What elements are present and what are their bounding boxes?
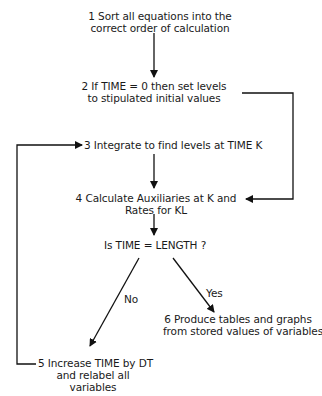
step-3: 3 Integrate to find levels at TIME K — [84, 139, 244, 151]
step-6: 6 Produce tables and graphs from stored … — [163, 313, 313, 337]
step-2: 2 If TIME = 0 then set levels to stipula… — [70, 80, 238, 104]
step-5-line1: 5 Increase TIME by DT — [38, 357, 148, 369]
arrow-decision-yes — [173, 258, 214, 312]
step-1: 1 Sort all equations into the correct or… — [60, 10, 260, 34]
step-4-line2: Rates for KL — [72, 204, 240, 216]
step-6-line1: 6 Produce tables and graphs — [163, 313, 313, 325]
step-2-line1: 2 If TIME = 0 then set levels — [70, 80, 238, 92]
step-2-line2: to stipulated initial values — [70, 92, 238, 104]
step-6-line2: from stored values of variables — [163, 325, 313, 337]
step-5-line3: variables — [38, 381, 148, 393]
step-3-line1: 3 Integrate to find levels at TIME K — [84, 139, 244, 151]
step-1-line1: 1 Sort all equations into the — [60, 10, 260, 22]
step-4-line1: 4 Calculate Auxiliaries at K and — [72, 192, 240, 204]
decision-text: Is TIME = LENGTH ? — [104, 239, 204, 251]
no-label: No — [124, 293, 138, 305]
step-4: 4 Calculate Auxiliaries at K and Rates f… — [72, 192, 240, 216]
yes-label: Yes — [206, 287, 223, 299]
decision-label: Is TIME = LENGTH ? — [104, 239, 204, 251]
step-5-line2: and relabel all — [38, 369, 148, 381]
step-1-line2: correct order of calculation — [60, 22, 260, 34]
arrow-step5-to-step3 — [17, 145, 82, 364]
step-5: 5 Increase TIME by DT and relabel all va… — [38, 357, 148, 393]
